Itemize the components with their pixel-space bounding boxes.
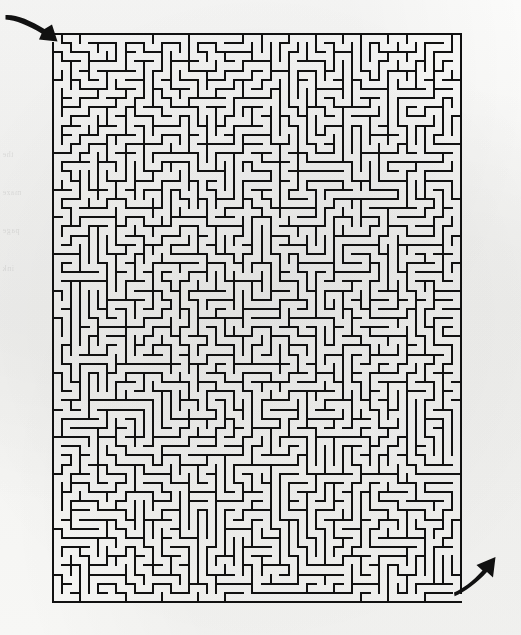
maze-grid: [0, 0, 521, 635]
maze-wall-group: [52, 33, 462, 603]
maze-page: the maze page ink Rectangular Grid Maze: [0, 0, 521, 635]
